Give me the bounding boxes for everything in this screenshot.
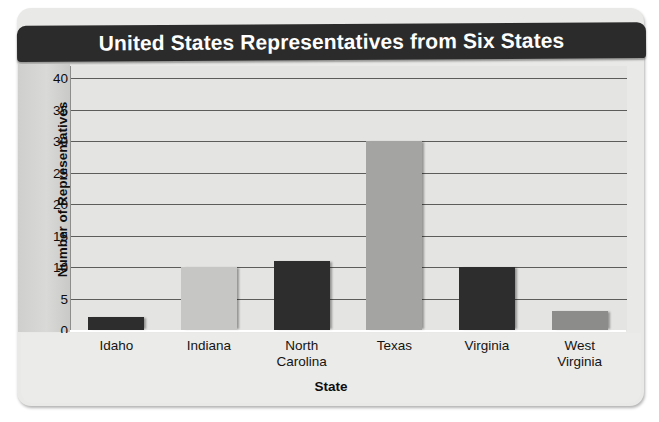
x-tick-label: NorthCarolina xyxy=(255,338,348,370)
bar-texas xyxy=(366,141,422,330)
y-tick-label: 40 xyxy=(24,71,68,86)
y-tick-label: 10 xyxy=(24,260,68,275)
chart-title-banner: United States Representatives from Six S… xyxy=(17,22,646,62)
x-axis-title: State xyxy=(21,379,641,394)
bar-slot xyxy=(366,66,422,331)
y-tick-label: 35 xyxy=(24,102,68,117)
y-axis-ticks: 4035302520151050 xyxy=(18,66,68,331)
x-tick-label: WestVirginia xyxy=(533,338,626,370)
x-axis-panel: IdahoIndianaNorthCarolinaTexasVirginiaWe… xyxy=(21,333,641,403)
bar-slot xyxy=(88,66,144,331)
bar-slot xyxy=(459,66,515,331)
bar-slot xyxy=(181,66,237,331)
bar-series xyxy=(70,66,626,331)
y-tick-label: 5 xyxy=(24,291,68,306)
bar-slot xyxy=(552,66,608,331)
x-tick-label: Idaho xyxy=(70,338,163,354)
y-tick-label: 15 xyxy=(24,228,68,243)
bar-west-virginia xyxy=(552,311,608,330)
bar-north-carolina xyxy=(274,261,330,330)
x-tick-label: Indiana xyxy=(163,338,256,354)
bar-indiana xyxy=(181,267,237,330)
y-tick-label: 20 xyxy=(24,197,68,212)
y-tick-label: 25 xyxy=(24,165,68,180)
chart-title: United States Representatives from Six S… xyxy=(17,22,646,62)
x-tick-label: Virginia xyxy=(441,338,534,354)
bar-slot xyxy=(274,66,330,331)
y-tick-label: 30 xyxy=(24,134,68,149)
bar-virginia xyxy=(459,267,515,330)
bar-idaho xyxy=(88,317,144,330)
chart-screenshot: United States Representatives from Six S… xyxy=(0,0,659,422)
x-tick-label: Texas xyxy=(348,338,441,354)
